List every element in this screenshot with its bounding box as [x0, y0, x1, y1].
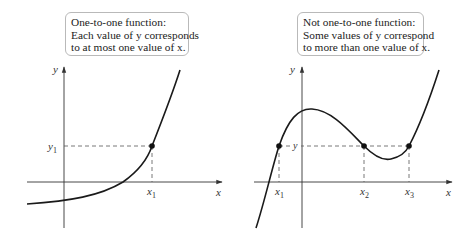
- x-axis-label: x: [445, 186, 451, 198]
- x2-label: x2: [359, 185, 369, 200]
- y-axis-label: y: [289, 63, 295, 75]
- intersection-point-2: [361, 143, 367, 149]
- intersection-point: [149, 143, 155, 149]
- x1-label: x1: [146, 185, 156, 200]
- x1-label: x1: [274, 185, 284, 200]
- x-axis-label: x: [215, 186, 221, 198]
- y1-label: y1: [47, 140, 57, 155]
- graphs-canvas: y x y1 x1 y x: [0, 0, 475, 240]
- x3-label: x3: [404, 185, 414, 200]
- one-to-one-curve: [27, 70, 180, 204]
- intersection-point-1: [276, 143, 282, 149]
- intersection-point-3: [406, 143, 412, 149]
- right-graph: y x y x1 x2 x3: [254, 63, 452, 228]
- left-graph: y x y1 x1: [27, 63, 222, 228]
- not-one-to-one-curve: [256, 70, 439, 228]
- y-level-label: y: [292, 140, 298, 151]
- one-to-one-function-diagram: One-to-one function: Each value of y cor…: [0, 0, 475, 240]
- y-axis-label: y: [52, 63, 58, 75]
